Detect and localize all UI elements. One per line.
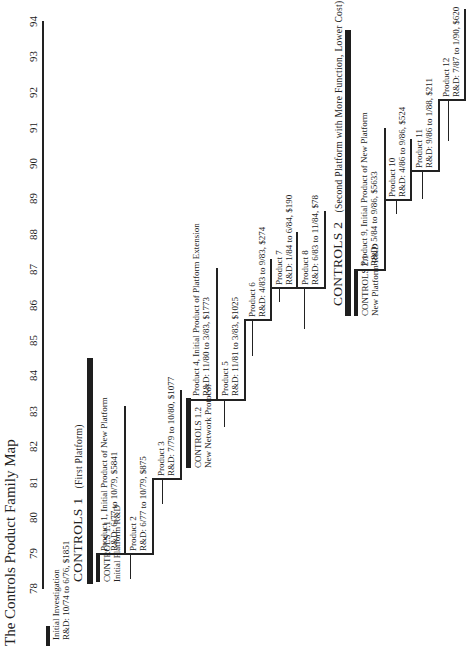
product-3-label: Product 3 R&D: 7/79 to 10/80, $1077 <box>156 377 176 476</box>
platform-controls-1-bar <box>87 358 93 584</box>
product-11-rd: R&D: 9/86 to 1/88, $211 <box>424 78 434 168</box>
product-1-name: Product 1, Initial Product of New Platfo… <box>99 397 109 551</box>
product-4-name: Product 4, Initial Product of Platform E… <box>191 223 201 396</box>
product-1-bar <box>124 406 126 555</box>
subplatform-controls-1-1-bar <box>96 554 100 579</box>
product-6-rd: R&D: 4/83 to 9/83, $274 <box>257 227 267 317</box>
product-8-name: Product 8 <box>300 195 310 285</box>
product-3-name: Product 3 <box>156 377 166 476</box>
tick-92: 92 <box>27 87 39 98</box>
product-family-map: The Controls Product Family Map 78 79 80… <box>0 0 475 654</box>
lead-line <box>130 555 131 579</box>
lead-line <box>448 101 449 141</box>
time-axis <box>42 21 44 589</box>
product-1-label: Product 1, Initial Product of New Platfo… <box>99 397 119 551</box>
lead-line <box>224 401 225 427</box>
product-9-name: Product 9, Initial Product of New Platfo… <box>359 112 369 266</box>
lead-line <box>279 289 280 302</box>
tick-86: 86 <box>27 300 39 311</box>
tick-81: 81 <box>27 477 39 488</box>
product-10-label: Product 10 R&D: 4/86 to 9/86, $524 <box>387 107 407 197</box>
product-9-rd: R&D: 5/84 to 9/86, $5633 <box>369 112 379 266</box>
connector <box>354 269 384 271</box>
platform-controls-1-desc: (First Platform) <box>74 424 84 488</box>
lead-line <box>162 480 163 504</box>
product-2-bar <box>152 479 154 555</box>
tick-87: 87 <box>27 264 39 275</box>
product-11-name: Product 11 <box>414 78 424 168</box>
tick-91: 91 <box>27 122 39 133</box>
connector <box>438 99 466 101</box>
tick-80: 80 <box>27 512 39 523</box>
tick-82: 82 <box>27 441 39 452</box>
initial-investigation-label: Initial Investigation R&D: 10/74 to 6/76… <box>51 541 71 640</box>
product-10-name: Product 10 <box>387 107 397 197</box>
product-5-name: Product 5 <box>220 297 230 396</box>
product-6-name: Product 6 <box>247 227 257 317</box>
product-4-rd: R&D: 11/80 to 3/83, $1773 <box>201 223 211 396</box>
product-7-rd: R&D: 1/84 to 6/84, $190 <box>284 195 294 285</box>
connector <box>384 199 410 201</box>
tick-85: 85 <box>27 335 39 346</box>
platform-controls-2-label: CONTROLS 2 (Second Platform with More Fu… <box>330 1 346 306</box>
product-11-label: Product 11 R&D: 9/86 to 1/88, $211 <box>414 78 434 168</box>
product-2-rd: R&D: 6/77 to 10/79, $875 <box>138 456 148 551</box>
connector <box>216 399 244 401</box>
tick-94: 94 <box>27 16 39 27</box>
product-3-rd: R&D: 7/79 to 10/80, $1077 <box>166 377 176 476</box>
product-7-label: Product 7 R&D: 1/84 to 6/84, $190 <box>274 195 294 285</box>
product-6-bar <box>270 259 272 321</box>
product-4-bar <box>216 268 218 401</box>
tick-78: 78 <box>27 583 39 594</box>
platform-controls-1-name: CONTROLS 1 <box>70 498 85 582</box>
platform-controls-1-label: CONTROLS 1 (First Platform) <box>70 424 86 582</box>
connector <box>270 287 296 289</box>
product-7-name: Product 7 <box>274 195 284 285</box>
lead-line <box>304 289 305 329</box>
connector <box>96 553 124 555</box>
tick-79: 79 <box>27 548 39 559</box>
subplatform-controls-2-1-bar <box>354 270 358 316</box>
product-12-rd: R&D: 7/87 to 1/90, $620 <box>451 7 461 97</box>
lead-line <box>422 172 423 199</box>
product-5-rd: R&D: 11/81 to 3/83, $1025 <box>230 297 240 396</box>
product-8-rd: R&D: 6/83 to 11/84, $78 <box>310 195 320 285</box>
subplatform-stub <box>96 579 100 582</box>
product-11-bar <box>438 100 440 172</box>
connector <box>124 553 152 555</box>
product-8-bar <box>324 211 326 289</box>
product-12-name: Product 12 <box>441 7 451 97</box>
lead-line <box>252 321 253 356</box>
product-6-label: Product 6 R&D: 4/83 to 9/83, $274 <box>247 227 267 317</box>
subplatform-controls-1-2-bar <box>186 398 191 468</box>
product-3-bar <box>180 390 182 480</box>
tick-83: 83 <box>27 406 39 417</box>
initial-investigation-name: Initial Investigation <box>51 541 61 640</box>
product-2-label: Product 2 R&D: 6/77 to 10/79, $875 <box>128 456 148 551</box>
product-8-label: Product 8 R&D: 6/83 to 11/84, $78 <box>300 195 320 285</box>
product-12-bar <box>464 9 466 101</box>
chart-title: The Controls Product Family Map <box>2 439 19 646</box>
subplatform-controls-1-2-label: CONTROLS 1.2 New Network Protocol <box>193 385 213 468</box>
platform-controls-2-name: CONTROLS 2 <box>330 222 345 306</box>
product-12-label: Product 12 R&D: 7/87 to 1/90, $620 <box>441 7 461 97</box>
connector <box>410 170 438 172</box>
platform-controls-2-bar <box>345 30 351 316</box>
subplatform-controls-1-2-desc: New Network Protocol <box>203 385 213 468</box>
tick-84: 84 <box>27 370 39 381</box>
connector <box>152 478 180 480</box>
platform-controls-2-desc: (Second Platform with More Function, Low… <box>334 1 344 213</box>
product-2-name: Product 2 <box>128 456 138 551</box>
lead-line <box>396 201 397 214</box>
product-5-bar <box>244 320 246 401</box>
connector <box>188 399 216 401</box>
connector <box>296 287 324 289</box>
initial-investigation-bar <box>46 626 50 646</box>
tick-93: 93 <box>27 51 39 62</box>
product-10-rd: R&D: 4/86 to 9/86, $524 <box>397 107 407 197</box>
tick-89: 89 <box>27 193 39 204</box>
product-9-label: Product 9, Initial Product of New Platfo… <box>359 112 379 266</box>
product-1-rd: R&D: 6/77 to 10/79, $5841 <box>109 397 119 551</box>
product-4-label: Product 4, Initial Product of Platform E… <box>191 223 211 396</box>
tick-88: 88 <box>27 229 39 240</box>
